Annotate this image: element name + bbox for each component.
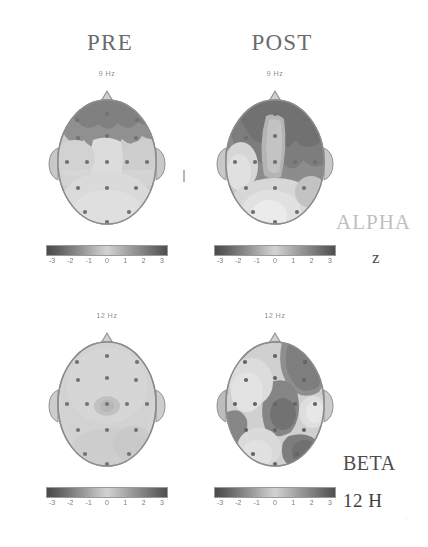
colorbar-beta-post: -3 -2 -1 0 1 2 3 — [214, 487, 336, 513]
colorbar-alpha-post: -3 -2 -1 0 1 2 3 — [214, 245, 336, 271]
cbar-tick: 2 — [310, 499, 314, 506]
cbar-tick: 2 — [142, 499, 146, 506]
band-label-beta: BETA — [343, 452, 396, 475]
topomap-panel-beta-post: 12 Hz — [208, 312, 342, 517]
cbar-tick: -2 — [235, 499, 241, 506]
head-svg-alpha-pre — [45, 84, 169, 236]
head-plot-beta-pre — [45, 326, 169, 478]
column-header-post: POST — [222, 30, 342, 56]
cbar-tick: 0 — [105, 499, 109, 506]
divider-tick-mark — [183, 170, 185, 182]
head-svg-alpha-post — [213, 84, 337, 236]
cbar-tick: -2 — [67, 257, 73, 264]
cbar-tick: -1 — [254, 257, 260, 264]
colorbar-ticks: -3 -2 -1 0 1 2 3 — [46, 499, 168, 513]
head-svg-beta-post — [213, 326, 337, 478]
cbar-tick: -3 — [49, 257, 55, 264]
cbar-tick: 1 — [291, 257, 295, 264]
colorbar-gradient — [214, 245, 336, 256]
colorbar-gradient — [214, 487, 336, 498]
cbar-tick: -3 — [217, 499, 223, 506]
head-svg-beta-pre — [45, 326, 169, 478]
colorbar-gradient — [46, 487, 168, 498]
head-plot-alpha-pre — [45, 84, 169, 236]
cbar-tick: 2 — [310, 257, 314, 264]
cbar-tick: 2 — [142, 257, 146, 264]
cbar-tick: -2 — [235, 257, 241, 264]
colorbar-ticks: -3 -2 -1 0 1 2 3 — [46, 257, 168, 271]
cbar-tick: 0 — [273, 257, 277, 264]
cbar-tick: 3 — [160, 499, 164, 506]
topomap-panel-alpha-pre: 9 Hz — [40, 70, 174, 275]
band-unit-beta: 12 H — [343, 490, 382, 512]
topomap-panel-beta-pre: 12 Hz — [40, 312, 174, 517]
head-plot-alpha-post — [213, 84, 337, 236]
cbar-tick: 1 — [123, 499, 127, 506]
cbar-tick: 1 — [123, 257, 127, 264]
cbar-tick: -1 — [86, 499, 92, 506]
colorbar-beta-pre: -3 -2 -1 0 1 2 3 — [46, 487, 168, 513]
frequency-label-beta-pre: 12 Hz — [40, 312, 174, 319]
cbar-tick: 0 — [273, 499, 277, 506]
column-header-pre: PRE — [55, 30, 165, 56]
cbar-tick: 3 — [328, 257, 332, 264]
cbar-tick: 3 — [160, 257, 164, 264]
cbar-tick: -3 — [217, 257, 223, 264]
cbar-tick: 1 — [291, 499, 295, 506]
band-label-alpha: ALPHA — [336, 210, 411, 235]
frequency-label-alpha-post: 9 Hz — [208, 70, 342, 77]
cbar-tick: -3 — [49, 499, 55, 506]
colorbar-ticks: -3 -2 -1 0 1 2 3 — [214, 499, 336, 513]
colorbar-gradient — [46, 245, 168, 256]
cbar-tick: 3 — [328, 499, 332, 506]
head-plot-beta-post — [213, 326, 337, 478]
eeg-topomap-figure: PRE POST 9 Hz — [0, 0, 428, 547]
cbar-tick: -1 — [254, 499, 260, 506]
band-unit-alpha: z — [372, 248, 380, 268]
cbar-tick: -1 — [86, 257, 92, 264]
frequency-label-alpha-pre: 9 Hz — [40, 70, 174, 77]
cbar-tick: 0 — [105, 257, 109, 264]
frequency-label-beta-post: 12 Hz — [208, 312, 342, 319]
topomap-panel-alpha-post: 9 Hz — [208, 70, 342, 275]
colorbar-ticks: -3 -2 -1 0 1 2 3 — [214, 257, 336, 271]
cbar-tick: -2 — [67, 499, 73, 506]
colorbar-alpha-pre: -3 -2 -1 0 1 2 3 — [46, 245, 168, 271]
